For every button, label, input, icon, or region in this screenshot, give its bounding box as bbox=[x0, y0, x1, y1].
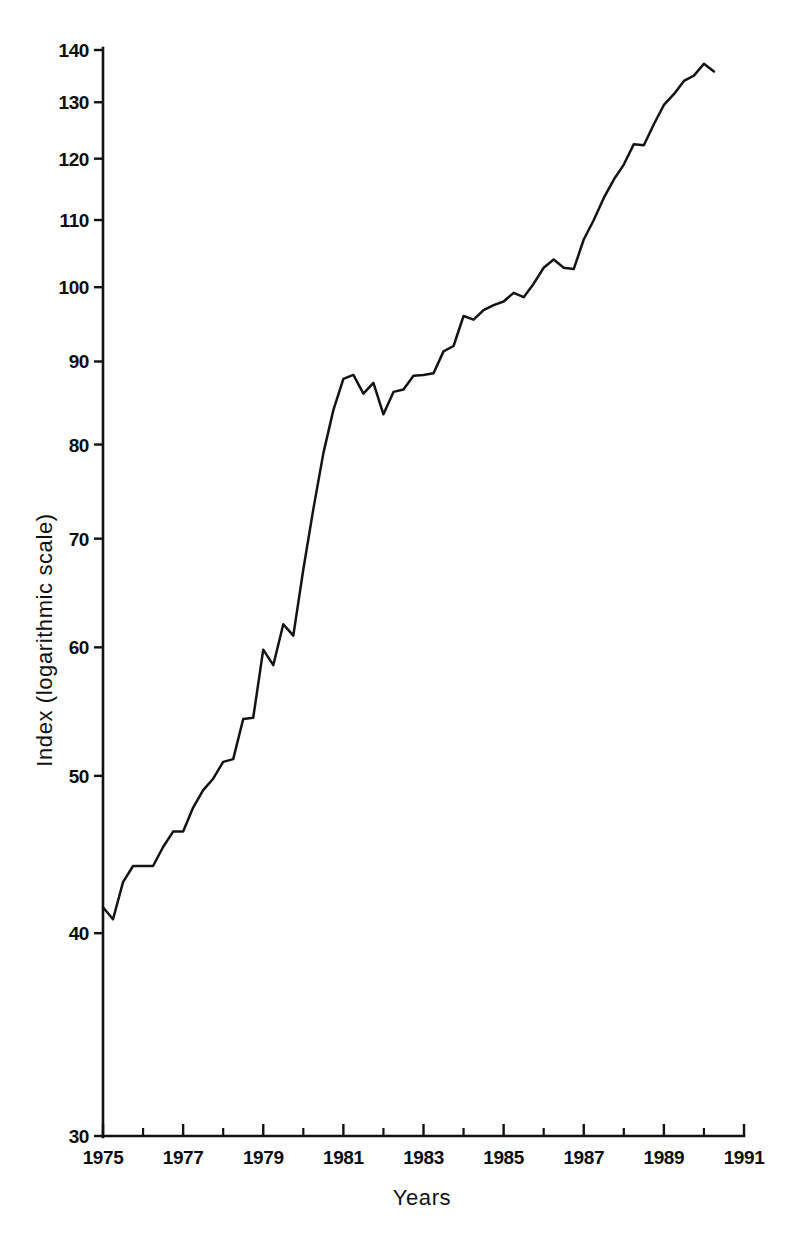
x-tick-label-1981: 1981 bbox=[323, 1147, 365, 1168]
y-tick-label-100: 100 bbox=[58, 277, 89, 298]
y-tick-label-130: 130 bbox=[58, 92, 89, 113]
x-tick-label-1975: 1975 bbox=[83, 1147, 125, 1168]
data-series-line bbox=[103, 64, 714, 920]
chart-figure: 30405060708090100110120130140 1975197719… bbox=[0, 0, 808, 1238]
x-axis: 197519771979198119831985198719891991 bbox=[83, 1124, 766, 1168]
y-tick-label-30: 30 bbox=[69, 1126, 89, 1147]
line-chart: 30405060708090100110120130140 1975197719… bbox=[0, 0, 808, 1238]
x-axis-ticks bbox=[103, 1124, 744, 1136]
y-tick-label-140: 140 bbox=[58, 40, 89, 61]
y-tick-label-120: 120 bbox=[58, 149, 89, 170]
y-tick-label-60: 60 bbox=[69, 637, 89, 658]
y-tick-label-80: 80 bbox=[69, 435, 89, 456]
x-tick-label-1977: 1977 bbox=[163, 1147, 204, 1168]
y-axis-tick-labels: 30405060708090100110120130140 bbox=[58, 40, 89, 1147]
x-tick-label-1989: 1989 bbox=[644, 1147, 685, 1168]
y-tick-label-90: 90 bbox=[69, 351, 89, 372]
x-tick-label-1985: 1985 bbox=[483, 1147, 525, 1168]
y-axis-ticks bbox=[94, 50, 103, 1136]
x-axis-tick-labels: 197519771979198119831985198719891991 bbox=[83, 1147, 766, 1168]
y-axis-title: Index (logarithmic scale) bbox=[32, 513, 57, 766]
x-axis-title: Years bbox=[393, 1185, 451, 1210]
y-tick-label-110: 110 bbox=[60, 210, 89, 231]
x-tick-label-1987: 1987 bbox=[563, 1147, 604, 1168]
x-tick-label-1991: 1991 bbox=[724, 1147, 766, 1168]
y-tick-label-50: 50 bbox=[69, 766, 89, 787]
y-axis: 30405060708090100110120130140 bbox=[58, 40, 103, 1147]
x-tick-label-1983: 1983 bbox=[403, 1147, 444, 1168]
y-tick-label-40: 40 bbox=[69, 923, 89, 944]
x-tick-label-1979: 1979 bbox=[243, 1147, 284, 1168]
y-tick-label-70: 70 bbox=[69, 529, 89, 550]
